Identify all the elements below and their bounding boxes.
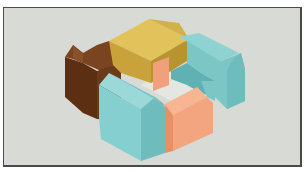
figure-frame <box>3 7 302 167</box>
massing-model-diagram <box>4 8 300 165</box>
